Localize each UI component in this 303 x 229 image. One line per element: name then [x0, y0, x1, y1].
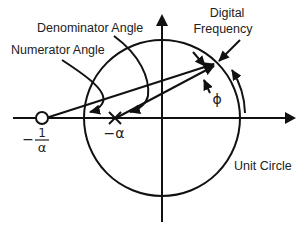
- zero-label-denominator: α: [38, 140, 47, 155]
- phi-label: ϕ: [212, 91, 221, 107]
- zero-marker-icon: [36, 112, 48, 124]
- digital-frequency-pointer: [219, 40, 240, 61]
- digital-frequency-label-line2: Frequency: [193, 22, 253, 36]
- digital-frequency-label-line1: Digital: [210, 6, 245, 20]
- denominator-angle-label: Denominator Angle: [37, 21, 143, 35]
- unit-circle-label: Unit Circle: [234, 159, 292, 173]
- pole-label: −α: [104, 125, 125, 141]
- real-axis-arrow-icon: [285, 112, 296, 124]
- phi-pointer-lower: [204, 80, 210, 93]
- denominator-vector: [116, 66, 214, 118]
- imaginary-axis-arrow-icon: [156, 14, 168, 26]
- zero-label-numerator: 1: [38, 126, 46, 140]
- numerator-angle-indicator: [62, 60, 104, 112]
- pole-zero-diagram: Denominator Angle Numerator Angle Digita…: [0, 0, 303, 229]
- phi-pointer-upper: [193, 52, 205, 66]
- zero-label: − 1 α: [22, 126, 49, 155]
- diagram-canvas: Denominator Angle Numerator Angle Digita…: [0, 0, 303, 229]
- real-axis: [13, 112, 296, 124]
- numerator-angle-label: Numerator Angle: [11, 43, 105, 57]
- zero-label-minus: −: [22, 131, 34, 147]
